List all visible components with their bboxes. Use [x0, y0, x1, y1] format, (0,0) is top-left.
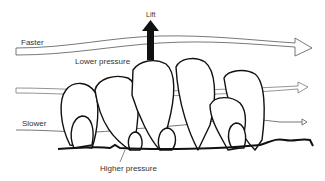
- ground-line: [58, 139, 313, 149]
- faster-label: Faster: [21, 39, 44, 47]
- higher-pressure-pointer: [120, 150, 125, 162]
- lower-pressure-label: Lower pressure: [75, 58, 130, 66]
- fast-flow-arrow: [16, 36, 312, 56]
- lift-diagram: Lift Faster Lower pressure Slower Higher…: [0, 0, 325, 181]
- lift-label: Lift: [146, 11, 155, 18]
- sediment-grains: [61, 59, 264, 150]
- diagram-canvas: [0, 0, 325, 181]
- higher-pressure-label: Higher pressure: [100, 165, 157, 173]
- slower-label: Slower: [22, 120, 46, 128]
